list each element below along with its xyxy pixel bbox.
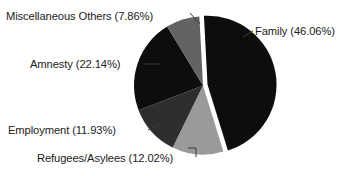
pie-label-family: Family (46.06%) <box>255 25 335 38</box>
pie-label-miscellaneous-others: Miscellaneous Others (7.86%) <box>6 10 153 23</box>
pie-chart: Miscellaneous Others (7.86%) Family (46.… <box>0 0 350 176</box>
pie-label-refugees: Refugees/Asylees (12.02%) <box>37 152 173 165</box>
pie-label-amnesty: Amnesty (22.14%) <box>30 58 120 71</box>
pie-label-employment: Employment (11.93%) <box>8 124 116 137</box>
